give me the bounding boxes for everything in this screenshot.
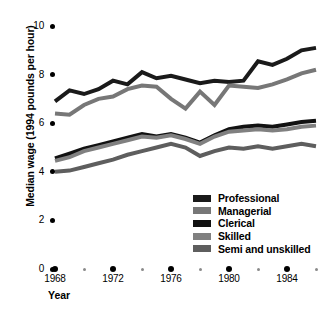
plot-area [0, 0, 334, 317]
legend-label: Clerical [218, 217, 255, 229]
legend-swatch [193, 220, 211, 227]
legend-item[interactable]: Managerial [193, 205, 333, 218]
legend-item[interactable]: Semi and unskilled [193, 242, 333, 255]
legend-label: Professional [218, 192, 279, 204]
legend-item[interactable]: Clerical [193, 217, 333, 230]
series-line [55, 48, 316, 101]
legend-swatch [193, 195, 211, 202]
legend-label: Managerial [218, 205, 271, 217]
legend-label: Skilled [218, 230, 251, 242]
wage-line-chart: Median wage (1994 pounds per hour) 02468… [0, 0, 334, 317]
legend-item[interactable]: Professional [193, 192, 333, 205]
chart-legend: ProfessionalManagerialClericalSkilledSem… [193, 192, 333, 255]
series-line [55, 126, 316, 161]
legend-label: Semi and unskilled [218, 243, 310, 255]
legend-item[interactable]: Skilled [193, 230, 333, 243]
x-axis-label: Year [48, 289, 70, 301]
legend-swatch [193, 233, 211, 240]
legend-swatch [193, 207, 211, 214]
legend-swatch [193, 245, 211, 252]
